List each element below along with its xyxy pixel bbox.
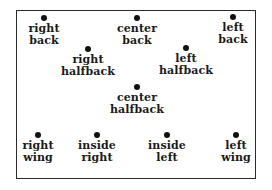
player-dot-icon xyxy=(183,45,189,51)
position-right-halfback: right halfback xyxy=(48,46,128,78)
position-left-back: left back xyxy=(193,14,272,46)
position-label-line2: right xyxy=(57,152,137,164)
player-dot-icon xyxy=(85,46,91,52)
position-inside-left: inside left xyxy=(127,132,207,164)
position-right-back: right back xyxy=(4,15,84,47)
position-center-halfback: center halfback xyxy=(97,84,177,116)
position-label-line2: halfback xyxy=(146,65,226,77)
player-dot-icon xyxy=(134,84,140,90)
player-dot-icon xyxy=(35,132,41,138)
position-label-line2: halfback xyxy=(48,66,128,78)
player-dot-icon xyxy=(94,132,100,138)
player-dot-icon xyxy=(134,15,140,21)
position-label-line2: halfback xyxy=(97,104,177,116)
position-left-wing: left wing xyxy=(196,132,272,164)
position-inside-right: inside right xyxy=(57,132,137,164)
player-dot-icon xyxy=(164,132,170,138)
position-label-line2: wing xyxy=(196,152,272,164)
position-label-line2: left xyxy=(127,152,207,164)
player-dot-icon xyxy=(233,132,239,138)
player-dot-icon xyxy=(230,14,236,20)
position-left-halfback: left halfback xyxy=(146,45,226,77)
position-center-back: center back xyxy=(97,15,177,47)
player-dot-icon xyxy=(41,15,47,21)
